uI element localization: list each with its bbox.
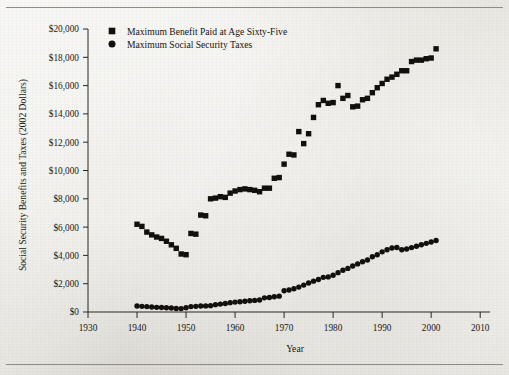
tax-data-point <box>291 286 296 291</box>
x-tick-label: 1990 <box>373 323 392 333</box>
tax-data-point <box>272 294 277 299</box>
benefit-data-point <box>159 236 164 241</box>
tax-data-point <box>389 245 394 250</box>
benefit-data-point <box>424 56 429 61</box>
tax-data-point <box>404 246 409 251</box>
benefit-data-point <box>379 81 384 86</box>
tax-data-point <box>340 268 345 273</box>
benefit-data-point <box>164 239 169 244</box>
legend-item-label: Maximum Benefit Paid at Age Sixty-Five <box>127 26 287 37</box>
tax-data-point <box>164 305 169 310</box>
tax-data-point <box>213 302 218 307</box>
tax-data-point <box>433 238 438 243</box>
axes-group <box>83 29 490 318</box>
chart-canvas: $0$2,000$4,000$6,000$8,000$10,000$12,000… <box>0 0 509 375</box>
tax-data-point <box>183 305 188 310</box>
benefit-data-point <box>384 77 389 82</box>
benefit-data-point <box>223 195 228 200</box>
x-tick-label: 2000 <box>422 323 441 333</box>
tax-data-point <box>414 244 419 249</box>
tax-data-point <box>252 298 257 303</box>
tax-data-point <box>379 249 384 254</box>
benefit-data-point <box>301 141 306 146</box>
tax-data-point <box>237 299 242 304</box>
benefit-data-point <box>213 195 218 200</box>
benefit-data-point <box>169 242 174 247</box>
benefit-data-point <box>296 129 301 134</box>
tax-data-point <box>306 280 311 285</box>
y-tick-labels: $0$2,000$4,000$6,000$8,000$10,000$12,000… <box>49 24 80 317</box>
tax-data-point <box>178 306 183 311</box>
benefit-data-point <box>335 83 340 88</box>
y-tick-label: $10,000 <box>49 166 80 176</box>
tax-data-point <box>370 254 375 259</box>
benefit-data-point <box>404 68 409 73</box>
benefit-data-point <box>198 212 203 217</box>
tax-data-point <box>428 239 433 244</box>
benefit-data-point <box>276 175 281 180</box>
tax-data-point <box>218 301 223 306</box>
x-tick-label: 1950 <box>177 323 196 333</box>
tax-data-point <box>316 277 321 282</box>
benefit-data-point <box>414 57 419 62</box>
legend-circle-marker-icon <box>109 41 116 48</box>
tax-data-point <box>281 288 286 293</box>
tax-data-point <box>169 305 174 310</box>
y-tick-label: $2,000 <box>53 279 79 289</box>
benefit-data-point <box>262 185 267 190</box>
benefit-data-point <box>144 229 149 234</box>
tax-data-point <box>227 300 232 305</box>
tax-data-point <box>286 287 291 292</box>
tax-data-point <box>384 247 389 252</box>
y-tick-label: $6,000 <box>53 223 79 233</box>
benefit-data-point <box>242 186 247 191</box>
benefit-data-point <box>272 176 277 181</box>
benefit-data-point <box>139 224 144 229</box>
tax-data-point <box>409 245 414 250</box>
y-tick-label: $14,000 <box>49 109 80 119</box>
tax-data-point <box>174 306 179 311</box>
tax-data-point <box>267 295 272 300</box>
tax-data-point <box>134 303 139 308</box>
benefit-data-point <box>330 100 335 105</box>
y-tick-label: $18,000 <box>49 53 80 63</box>
tax-data-point <box>242 299 247 304</box>
benefit-data-point <box>370 90 375 95</box>
tax-data-point <box>375 252 380 257</box>
benefit-data-point <box>350 104 355 109</box>
benefit-data-point <box>203 213 208 218</box>
tax-data-point <box>193 304 198 309</box>
y-axis-title: Social Security Benefits and Taxes (2002… <box>17 79 29 271</box>
legend-square-marker-icon <box>109 28 116 35</box>
tax-data-point <box>321 275 326 280</box>
y-tick-label: $0 <box>70 307 80 317</box>
chart-figure: $0$2,000$4,000$6,000$8,000$10,000$12,000… <box>0 0 509 375</box>
benefit-data-point <box>257 189 262 194</box>
benefit-data-point <box>394 72 399 77</box>
benefit-data-point <box>306 131 311 136</box>
benefit-data-point <box>237 187 242 192</box>
x-tick-label: 1980 <box>324 323 343 333</box>
benefit-data-point <box>252 188 257 193</box>
tax-data-point <box>159 305 164 310</box>
tax-data-point <box>223 301 228 306</box>
benefit-data-point <box>193 231 198 236</box>
tax-data-point <box>360 259 365 264</box>
tax-data-point <box>296 284 301 289</box>
benefit-data-point <box>419 57 424 62</box>
x-tick-label: 1940 <box>128 323 147 333</box>
tax-data-point <box>144 304 149 309</box>
legend-item-label: Maximum Social Security Taxes <box>127 39 252 50</box>
benefit-data-point <box>149 232 154 237</box>
tax-data-point <box>326 274 331 279</box>
benefit-data-point <box>178 251 183 256</box>
tax-data-point <box>247 298 252 303</box>
benefit-data-point <box>345 93 350 98</box>
tax-data-point <box>139 304 144 309</box>
x-tick-label: 1960 <box>226 323 245 333</box>
benefit-data-point <box>291 152 296 157</box>
tax-data-point <box>350 263 355 268</box>
chart-legend: Maximum Benefit Paid at Age Sixty-FiveMa… <box>109 26 288 50</box>
series-maximum-taxes-markers <box>134 238 438 311</box>
x-tick-label: 2010 <box>471 323 490 333</box>
